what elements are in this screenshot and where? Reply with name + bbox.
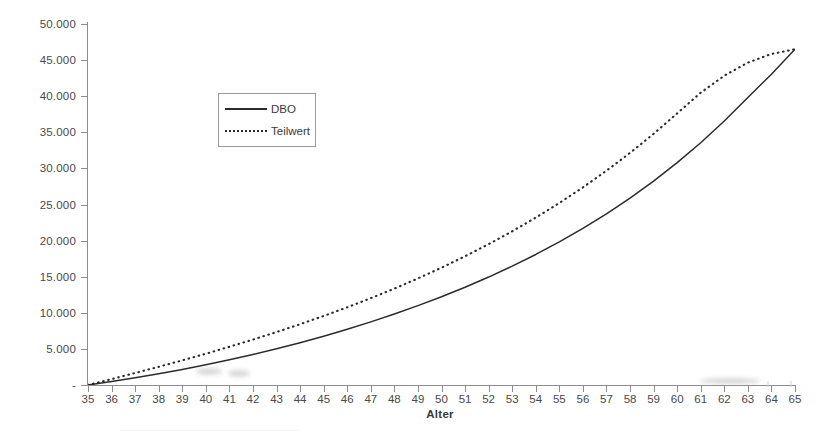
y-axis-tick [81, 277, 87, 278]
x-axis-label: 63 [741, 393, 754, 405]
x-axis-label: 36 [105, 393, 118, 405]
y-axis-label: 50.000 [8, 18, 76, 30]
x-axis-tick [159, 386, 160, 392]
chart-container: -5.00010.00015.00020.00025.00030.00035.0… [0, 0, 827, 438]
x-axis-label: 50 [435, 393, 448, 405]
x-axis-label: 65 [789, 393, 802, 405]
y-axis-tick [81, 132, 87, 133]
x-axis-tick [559, 386, 560, 392]
y-axis-label: 30.000 [8, 162, 76, 174]
legend-item-dbo: DBO [219, 98, 315, 120]
x-axis-tick [347, 386, 348, 392]
x-axis-tick [182, 386, 183, 392]
x-axis-tick [771, 386, 772, 392]
x-axis-label: 43 [270, 393, 283, 405]
x-axis-tick [135, 386, 136, 392]
x-axis-label: 64 [765, 393, 778, 405]
x-axis-label: 40 [199, 393, 212, 405]
x-axis-label: 49 [412, 393, 425, 405]
y-axis-tick [81, 313, 87, 314]
x-axis-tick [394, 386, 395, 392]
legend-label-teilwert: Teilwert [271, 125, 310, 137]
x-axis-tick [324, 386, 325, 392]
x-axis-tick [88, 386, 89, 392]
x-axis-label: 35 [82, 393, 95, 405]
x-axis-tick [606, 386, 607, 392]
x-axis-label: 44 [294, 393, 307, 405]
series-line-dbo [88, 49, 795, 385]
y-axis-tick [81, 96, 87, 97]
x-axis-label: 52 [482, 393, 495, 405]
y-axis-tick [81, 24, 87, 25]
x-axis-label: 45 [317, 393, 330, 405]
x-axis-label: 41 [223, 393, 236, 405]
x-axis-tick [489, 386, 490, 392]
x-axis-label: 54 [529, 393, 542, 405]
x-axis-label: 53 [506, 393, 519, 405]
x-axis-label: 37 [129, 393, 142, 405]
y-axis-tick [81, 349, 87, 350]
x-axis-tick [465, 386, 466, 392]
y-axis-label: - [8, 379, 76, 391]
x-axis-tick [654, 386, 655, 392]
x-axis-tick [583, 386, 584, 392]
dotted-line-sample [225, 126, 269, 136]
plot-area [88, 24, 795, 385]
x-axis-tick [701, 386, 702, 392]
scan-artifact [120, 430, 300, 431]
x-axis-label: 60 [671, 393, 684, 405]
x-axis-tick [512, 386, 513, 392]
y-axis-label: 15.000 [8, 271, 76, 283]
x-axis-tick [536, 386, 537, 392]
x-axis-tick [229, 386, 230, 392]
x-axis-title: Alter [426, 408, 454, 420]
x-axis-tick [418, 386, 419, 392]
x-axis-tick [795, 386, 796, 392]
x-axis-tick [371, 386, 372, 392]
x-axis-label: 57 [600, 393, 613, 405]
series-layer [88, 24, 795, 385]
series-line-teilwert [88, 49, 795, 385]
x-axis-tick [442, 386, 443, 392]
x-axis-label: 51 [459, 393, 472, 405]
y-axis-tick [81, 168, 87, 169]
y-axis-label: 35.000 [8, 126, 76, 138]
x-axis-label: 46 [341, 393, 354, 405]
x-axis-tick [724, 386, 725, 392]
x-axis-label: 39 [176, 393, 189, 405]
x-axis-label: 55 [553, 393, 566, 405]
x-axis-tick [253, 386, 254, 392]
y-axis-tick [81, 385, 87, 386]
x-axis-tick [630, 386, 631, 392]
x-axis-tick [206, 386, 207, 392]
x-axis-tick [277, 386, 278, 392]
x-axis-label: 56 [576, 393, 589, 405]
x-axis-tick [748, 386, 749, 392]
y-axis-label: 40.000 [8, 90, 76, 102]
x-axis-label: 62 [718, 393, 731, 405]
y-axis-tick [81, 60, 87, 61]
x-axis-label: 58 [624, 393, 637, 405]
x-axis-tick [300, 386, 301, 392]
y-axis-tick [81, 205, 87, 206]
y-axis-label: 20.000 [8, 235, 76, 247]
x-axis-label: 47 [364, 393, 377, 405]
y-axis-label: 45.000 [8, 54, 76, 66]
x-axis-label: 59 [647, 393, 660, 405]
y-axis-tick [81, 241, 87, 242]
x-axis-label: 42 [247, 393, 260, 405]
x-axis-tick [677, 386, 678, 392]
y-axis-label: 5.000 [8, 343, 76, 355]
x-axis-label: 61 [694, 393, 707, 405]
x-axis-label: 38 [152, 393, 165, 405]
chart-legend: DBO Teilwert [218, 93, 316, 147]
solid-line-sample [225, 104, 269, 114]
legend-item-teilwert: Teilwert [219, 120, 315, 142]
legend-label-dbo: DBO [271, 103, 296, 115]
y-axis-label: 10.000 [8, 307, 76, 319]
x-axis-label: 48 [388, 393, 401, 405]
x-axis-tick [112, 386, 113, 392]
y-axis-label: 25.000 [8, 199, 76, 211]
